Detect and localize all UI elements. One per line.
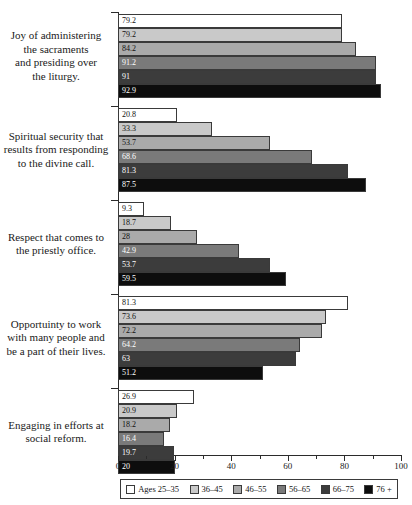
bar-chart: Joy of administeringthe sacramentsand pr… [0,0,412,505]
bar-row: 91 [118,70,401,84]
bar-row: 63 [118,352,401,366]
category-tick [111,106,118,107]
bar [118,70,376,84]
bar-row: 51.2 [118,366,401,380]
bar-row: 53.7 [118,136,401,150]
bar-row: 42.9 [118,244,401,258]
x-axis-tick-label: 20 [170,461,179,471]
bar [118,136,270,150]
category-tick [111,200,118,201]
x-axis-tick-minor [316,456,317,459]
legend-label: Ages 25–35 [138,484,179,494]
legend-label: 36–45 [202,484,223,494]
legend-item[interactable]: 66–75 [321,484,354,494]
bar-group: 26.920.918.216.419.720 [118,390,401,474]
bar [118,432,164,446]
legend-item[interactable]: 46–55 [233,484,266,494]
bar [118,352,296,366]
bar [118,272,286,286]
category-label-line: the liturgy. [2,70,110,84]
bar [118,390,194,404]
bar [118,164,348,178]
bar-group: 81.373.672.264.26351.2 [118,296,401,380]
legend-item[interactable]: 56–65 [277,484,310,494]
legend-swatch-icon [277,485,286,494]
bar [118,296,348,310]
bar-row: 91.2 [118,56,401,70]
category-label-line: social reform. [2,432,110,446]
bar-row: 73.6 [118,310,401,324]
bar [118,404,177,418]
bar-group: 20.833.353.768.681.387.5 [118,108,401,192]
bar-row: 81.3 [118,296,401,310]
legend-swatch-icon [233,485,242,494]
bar [118,244,239,258]
category-label: Respect that comes tothe priestly office… [2,231,110,258]
legend-item[interactable]: 76 + [364,484,391,494]
x-axis-tick-label: 100 [394,461,408,471]
category-label-line: and presiding over [2,56,110,70]
x-axis-tick-minor [146,456,147,459]
bar [118,14,342,28]
bar-row: 20 [118,460,401,474]
category-label: Spiritual security thatresults from resp… [2,130,110,171]
bar-row: 18.7 [118,216,401,230]
category-label-line: Respect that comes to [2,231,110,245]
bar [118,108,177,122]
bar [118,84,381,98]
bar [118,324,322,338]
legend-item[interactable]: 36–45 [190,484,223,494]
x-axis-tick-minor [260,456,261,459]
bar-row: 68.6 [118,150,401,164]
legend-label: 56–65 [289,484,310,494]
category-label: Opportuinty to workwith many people andb… [2,318,110,359]
bar [118,202,144,216]
bar [118,178,366,192]
bar-row: 20.9 [118,404,401,418]
bar [118,338,300,352]
bar-row: 79.2 [118,14,401,28]
x-axis-tick-label: 80 [340,461,349,471]
bar-row: 81.3 [118,164,401,178]
category-label-line: to the divine call. [2,157,110,171]
category-tick [111,12,118,13]
legend-label: 66–75 [333,484,354,494]
legend: Ages 25–3536–4546–5556–6566–7576 + [120,479,398,499]
legend-label: 46–55 [245,484,266,494]
category-tick [111,294,118,295]
legend-item[interactable]: Ages 25–35 [126,484,179,494]
legend-swatch-icon [364,485,373,494]
x-axis-tick-label: 40 [227,461,236,471]
bar-row: 28 [118,230,401,244]
category-label-line: be a part of their lives. [2,345,110,359]
category-label-line: Joy of administering [2,29,110,43]
legend-swatch-icon [321,485,330,494]
bar [118,28,342,42]
bar [118,42,356,56]
bar-group: 79.279.284.291.29192.9 [118,14,401,98]
x-axis-tick-minor [373,456,374,459]
bar [118,460,175,474]
bar-row: 92.9 [118,84,401,98]
category-label: Engaging in efforts atsocial reform. [2,419,110,446]
category-label-line: with many people and [2,331,110,345]
bar-row: 9.3 [118,202,401,216]
bar [118,366,263,380]
category-label-line: Opportuinty to work [2,318,110,332]
category-label-line: the priestly office. [2,244,110,258]
category-label-line: Spiritual security that [2,130,110,144]
category-tick [111,388,118,389]
bar-row: 72.2 [118,324,401,338]
bar-row: 64.2 [118,338,401,352]
bar [118,150,312,164]
x-axis-tick-minor [203,456,204,459]
legend-label: 76 + [376,484,391,494]
x-axis-tick-label: 60 [283,461,292,471]
bar-row: 26.9 [118,390,401,404]
category-label-line: the sacraments [2,43,110,57]
bar [118,122,212,136]
bar [118,310,326,324]
bar [118,56,376,70]
bar-row: 59.5 [118,272,401,286]
bar-row: 79.2 [118,28,401,42]
